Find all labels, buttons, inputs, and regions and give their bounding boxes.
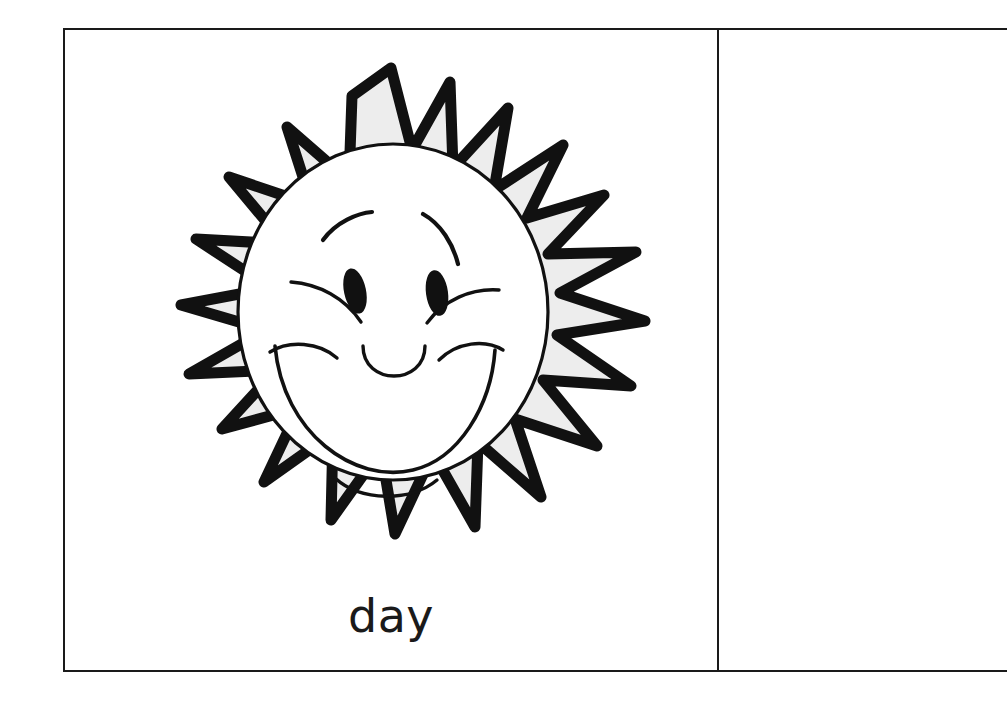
sun-face-disc [238, 144, 548, 480]
flashcard-cell-right[interactable] [717, 28, 1007, 672]
flashcard-cell-left[interactable]: day [63, 28, 719, 672]
worksheet-frame: day [0, 0, 1007, 703]
sun-icon [123, 50, 663, 580]
flashcard-caption-left: day [63, 593, 719, 639]
